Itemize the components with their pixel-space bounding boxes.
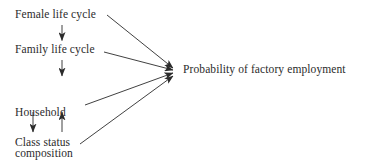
node-household-composition-line1: Household <box>15 106 73 120</box>
path-diagram: Female life cycle Family life cycle Hous… <box>0 0 374 161</box>
edge-family-to-outcome <box>104 52 173 70</box>
edge-household-to-outcome <box>85 73 173 105</box>
node-probability-of-factory-employment: Probability of factory employment <box>183 63 346 77</box>
node-family-life-cycle: Family life cycle <box>15 43 95 57</box>
edge-class-to-outcome <box>80 76 173 144</box>
node-class-status: Class status <box>15 136 70 150</box>
edge-female-to-outcome <box>107 15 173 68</box>
node-female-life-cycle: Female life cycle <box>15 8 96 22</box>
